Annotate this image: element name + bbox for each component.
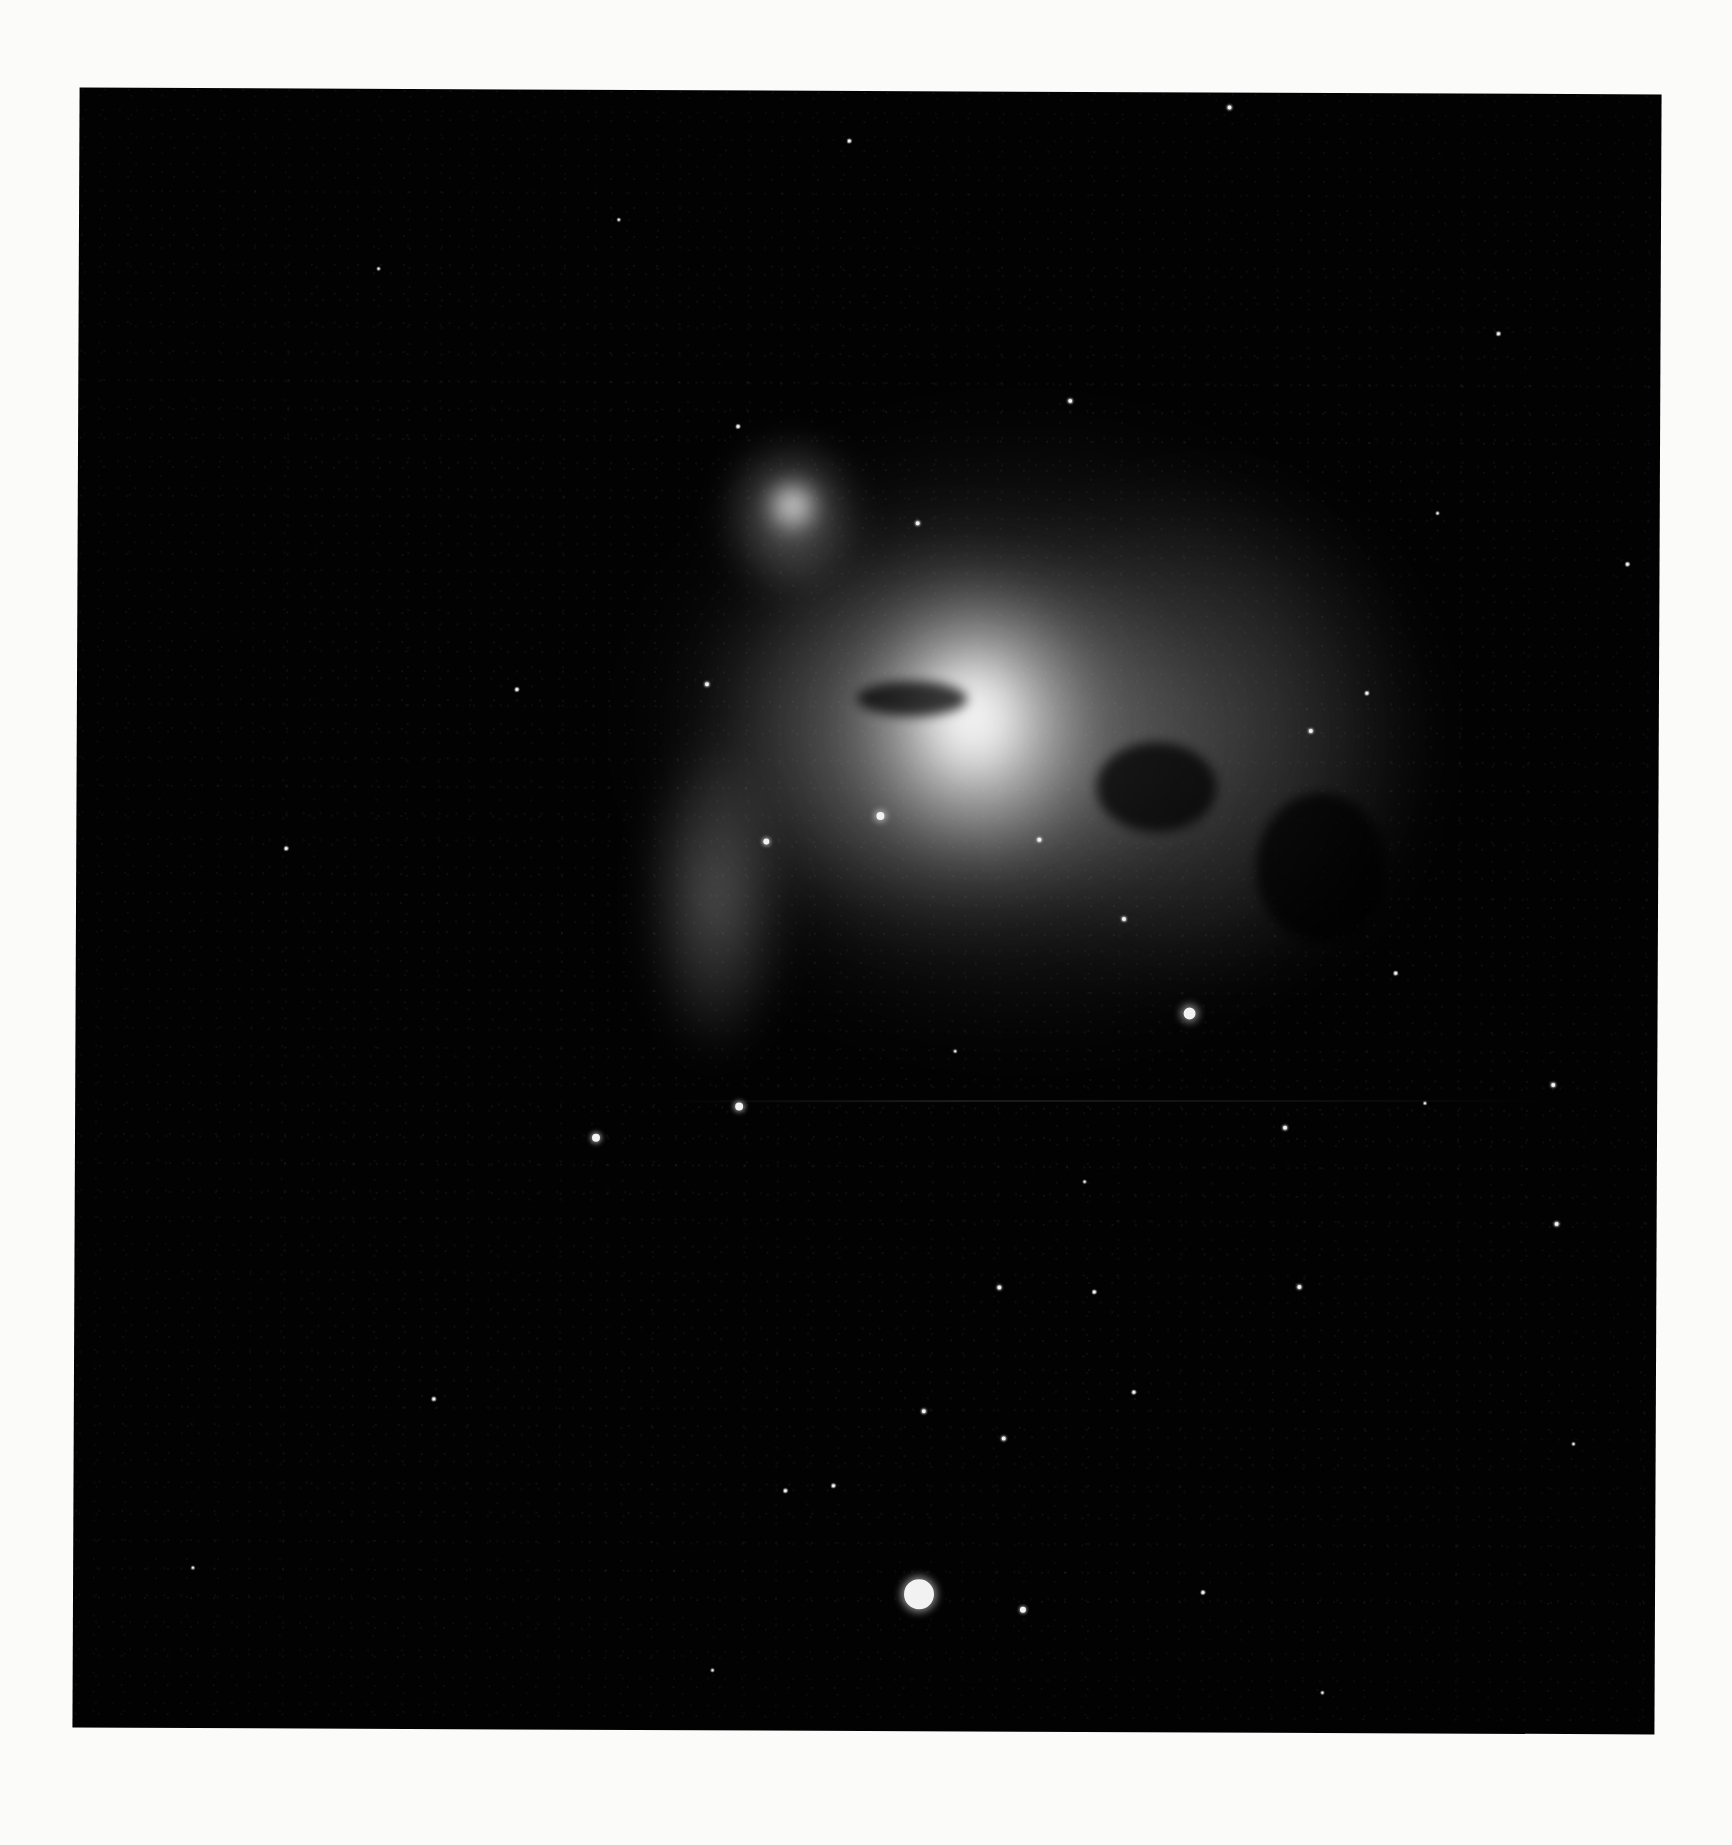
star-icon — [1202, 1591, 1205, 1594]
star-icon — [1002, 1437, 1006, 1441]
star-icon — [1184, 1007, 1196, 1019]
star-icon — [432, 1398, 435, 1401]
film-grain — [72, 88, 1661, 1735]
star-icon — [1122, 917, 1126, 921]
star-icon — [904, 1579, 934, 1609]
star-icon — [1037, 838, 1041, 842]
star-icon — [1093, 1290, 1096, 1293]
star-icon — [848, 139, 851, 142]
star-icon — [997, 1286, 1001, 1290]
star-icon — [737, 425, 740, 428]
star-icon — [1626, 563, 1629, 566]
star-icon — [1068, 399, 1072, 403]
star-icon — [784, 1489, 787, 1492]
star-icon — [1551, 1083, 1555, 1087]
star-icon — [763, 839, 769, 845]
star-icon — [1555, 1222, 1559, 1226]
star-icon — [1020, 1607, 1026, 1613]
star-icon — [285, 847, 288, 850]
star-icon — [832, 1484, 835, 1487]
star-icon — [1132, 1391, 1135, 1394]
star-icon — [1297, 1285, 1301, 1289]
star-icon — [922, 1409, 926, 1413]
star-icon — [735, 1102, 743, 1110]
star-icon — [592, 1134, 600, 1142]
star-icon — [876, 812, 884, 820]
star-icon — [1497, 332, 1500, 335]
lower-right-dust — [1096, 742, 1216, 833]
star-icon — [1228, 106, 1232, 110]
right-dark-bay — [1256, 793, 1387, 944]
star-icon — [1283, 1126, 1287, 1130]
star-icon — [705, 682, 709, 686]
star-icon — [1365, 692, 1368, 695]
fish-mouth-dust-lane — [857, 681, 967, 716]
star-icon — [1309, 729, 1313, 733]
star-icon — [916, 521, 920, 525]
nebula-photograph — [72, 88, 1661, 1735]
star-icon — [515, 688, 518, 691]
star-icon — [1394, 972, 1397, 975]
